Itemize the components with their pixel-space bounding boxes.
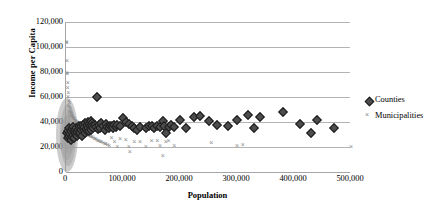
- data-point-municipalities: [82, 127, 87, 132]
- data-point-counties: [255, 112, 265, 122]
- data-point-municipalities: [82, 128, 87, 133]
- data-point-municipalities: [90, 134, 95, 139]
- data-point-municipalities: [94, 136, 99, 141]
- data-point-municipalities: [101, 140, 106, 145]
- data-point-counties: [181, 123, 191, 133]
- x-axis-tick-label: 400,000: [263, 175, 323, 183]
- data-point-counties: [132, 125, 142, 135]
- data-point-municipalities: [79, 125, 84, 130]
- gridline: [66, 122, 350, 123]
- data-point-counties: [100, 125, 110, 135]
- data-point-counties: [101, 119, 111, 129]
- data-point-municipalities: [64, 40, 69, 45]
- legend-item[interactable]: Municipalities: [364, 109, 444, 123]
- x-axis-tick-label: 200,000: [149, 175, 209, 183]
- data-point-municipalities: [127, 148, 132, 153]
- data-point-municipalities: [123, 136, 128, 141]
- data-point-counties: [278, 107, 288, 117]
- data-point-municipalities: [166, 137, 171, 142]
- data-point-counties: [149, 123, 159, 133]
- data-point-municipalities: [109, 135, 114, 140]
- gridline: [66, 22, 350, 23]
- data-point-municipalities: [64, 38, 69, 43]
- data-point-municipalities: [112, 138, 117, 143]
- data-point-counties: [79, 125, 89, 135]
- data-point-counties: [161, 128, 171, 138]
- data-point-counties: [104, 123, 114, 133]
- data-point-counties: [80, 118, 90, 128]
- legend-item-label: Counties: [375, 96, 405, 104]
- data-point-municipalities: [98, 138, 103, 143]
- data-point-counties: [129, 123, 139, 133]
- data-point-counties: [141, 123, 151, 133]
- data-point-municipalities: [79, 124, 84, 129]
- x-axis-title: Population: [65, 190, 350, 200]
- data-point-counties: [306, 128, 316, 138]
- data-point-counties: [329, 123, 339, 133]
- data-point-municipalities: [163, 138, 168, 143]
- data-point-counties: [111, 122, 121, 132]
- data-point-counties: [84, 119, 94, 129]
- data-point-counties: [77, 131, 87, 141]
- data-point-municipalities: [85, 130, 90, 135]
- data-point-municipalities: [93, 136, 98, 141]
- data-point-counties: [164, 122, 174, 132]
- y-axis-tick-label: 60,000: [17, 93, 63, 101]
- data-point-municipalities: [105, 141, 110, 146]
- data-point-counties: [79, 122, 89, 132]
- data-point-municipalities: [209, 140, 214, 145]
- data-point-counties: [169, 122, 179, 132]
- data-point-counties: [108, 123, 118, 133]
- data-point-counties: [295, 119, 305, 129]
- data-point-counties: [189, 112, 199, 122]
- data-point-counties: [91, 122, 101, 132]
- y-axis-tick-label: 100,000: [17, 43, 63, 51]
- x-axis-tick-labels: 0100,000200,000300,000400,000500,000: [65, 175, 350, 189]
- data-point-municipalities: [92, 135, 97, 140]
- data-point-municipalities: [83, 129, 88, 134]
- chart-legend: CountiesMunicipalities: [364, 93, 444, 125]
- data-point-municipalities: [84, 130, 89, 135]
- data-point-municipalities: [103, 141, 108, 146]
- data-point-municipalities: [149, 137, 154, 142]
- legend-item[interactable]: Counties: [364, 93, 444, 107]
- data-point-municipalities: [85, 131, 90, 136]
- data-point-municipalities: [102, 140, 107, 145]
- y-axis-tick-label: 120,000: [17, 18, 63, 26]
- data-point-municipalities: [83, 128, 88, 133]
- data-point-municipalities: [78, 123, 83, 128]
- data-point-municipalities: [78, 123, 83, 128]
- data-point-municipalities: [81, 126, 86, 131]
- data-point-counties: [95, 123, 105, 133]
- data-point-municipalities: [118, 136, 123, 141]
- legend-item-label: Municipalities: [375, 112, 423, 120]
- data-point-municipalities: [132, 138, 137, 143]
- data-point-counties: [124, 119, 134, 129]
- data-point-counties: [83, 123, 93, 133]
- data-point-municipalities: [95, 137, 100, 142]
- x-axis-tick-label: 500,000: [320, 175, 380, 183]
- data-point-counties: [96, 118, 106, 128]
- data-point-municipalities: [65, 80, 70, 85]
- data-point-municipalities: [86, 132, 91, 137]
- data-point-municipalities: [138, 139, 143, 144]
- data-point-municipalities: [89, 133, 94, 138]
- data-point-municipalities: [160, 152, 165, 157]
- gridline: [66, 172, 350, 173]
- data-point-municipalities: [66, 90, 71, 95]
- gridline: [66, 147, 350, 148]
- data-point-counties: [102, 122, 112, 132]
- data-point-municipalities: [86, 131, 91, 136]
- data-point-counties: [93, 124, 103, 134]
- data-point-counties: [81, 124, 91, 134]
- scatter-chart: Income per Capita 020,00040,00060,00080,…: [0, 0, 444, 211]
- data-point-counties: [243, 110, 253, 120]
- data-point-municipalities: [87, 133, 92, 138]
- x-axis-tick-label: 100,000: [92, 175, 152, 183]
- data-point-counties: [155, 122, 165, 132]
- data-point-counties: [88, 123, 98, 133]
- x-axis-tick-label: 300,000: [206, 175, 266, 183]
- data-point-counties: [195, 111, 205, 121]
- gridline: [66, 97, 350, 98]
- cross-marker-icon: [364, 112, 373, 121]
